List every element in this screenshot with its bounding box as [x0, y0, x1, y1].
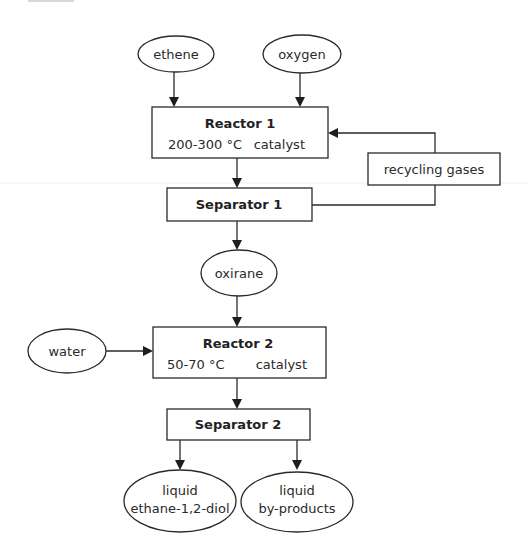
- water-label: water: [48, 344, 86, 359]
- oxygen-label: oxygen: [278, 47, 325, 62]
- reactor2-title: Reactor 2: [203, 336, 273, 351]
- node-byproducts: liquid by-products: [241, 472, 353, 532]
- byproducts-line2: by-products: [258, 501, 335, 516]
- arrowhead-right-icon: [143, 346, 153, 356]
- reactor1-title: Reactor 1: [205, 116, 275, 131]
- line-separator1-to-recycling: [312, 185, 435, 205]
- arrowhead-down-icon: [169, 97, 179, 107]
- arrowhead-down-icon: [295, 97, 305, 107]
- node-separator-1: Separator 1: [167, 188, 312, 221]
- node-reactor-1: Reactor 1 200-300 °C catalyst: [152, 107, 328, 158]
- reactor1-condition: catalyst: [254, 137, 305, 152]
- cut-off-text-remnant: [28, 0, 74, 2]
- node-ethene: ethene: [138, 36, 214, 72]
- arrowhead-left-icon: [328, 128, 338, 138]
- byproducts-line1: liquid: [279, 483, 315, 498]
- arrowhead-down-icon: [232, 317, 242, 327]
- recycling-gases-label: recycling gases: [384, 162, 485, 177]
- ethene-label: ethene: [153, 47, 199, 62]
- arrowhead-down-icon: [175, 460, 185, 470]
- separator2-title: Separator 2: [195, 417, 282, 432]
- reactor1-temperature: 200-300 °C: [168, 137, 242, 152]
- separator1-title: Separator 1: [196, 197, 283, 212]
- reactor2-temperature: 50-70 °C: [167, 357, 224, 372]
- node-water: water: [28, 329, 106, 373]
- product-line1: liquid: [162, 483, 198, 498]
- arrowhead-down-icon: [232, 240, 242, 250]
- reactor2-condition: catalyst: [256, 357, 307, 372]
- arrow-recycling-to-reactor1: [336, 133, 435, 153]
- node-reactor-2: Reactor 2 50-70 °C catalyst: [153, 327, 326, 378]
- node-oxirane: oxirane: [201, 250, 277, 296]
- node-oxygen: oxygen: [263, 35, 341, 73]
- process-flow-diagram: ethene oxygen Reactor 1 200-300 °C catal…: [0, 0, 529, 555]
- oxirane-label: oxirane: [215, 266, 263, 281]
- product-line2: ethane-1,2-diol: [130, 501, 229, 516]
- arrowhead-down-icon: [232, 399, 242, 409]
- arrowhead-down-icon: [292, 460, 302, 470]
- node-separator-2: Separator 2: [167, 409, 310, 440]
- node-product-ethanediol: liquid ethane-1,2-diol: [124, 470, 236, 532]
- node-recycling-gases: recycling gases: [368, 153, 500, 185]
